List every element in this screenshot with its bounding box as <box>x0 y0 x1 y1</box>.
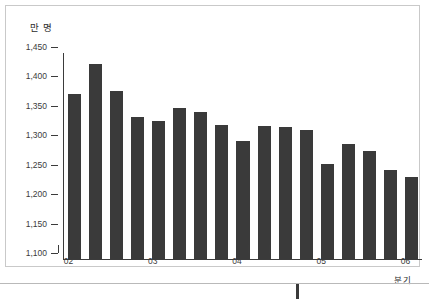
plot-area <box>64 53 422 259</box>
x-axis-tick <box>248 245 249 253</box>
bar <box>363 151 376 259</box>
x-axis-tick <box>100 245 101 253</box>
chart-frame: 만 명 분기 <box>5 5 420 267</box>
x-axis-tick <box>311 245 312 253</box>
x-axis-tick <box>163 245 164 253</box>
y-axis-tick <box>51 106 58 107</box>
y-axis-tick <box>51 165 58 166</box>
bar <box>173 108 186 259</box>
x-axis-tick <box>121 245 122 253</box>
y-axis-tick <box>51 194 58 195</box>
bar <box>300 130 313 259</box>
x-axis-tick <box>395 245 396 253</box>
y-axis-tick-label: 1,150 <box>26 219 47 229</box>
x-axis-tick <box>142 245 143 253</box>
bar <box>131 117 144 259</box>
x-axis-tick <box>269 245 270 253</box>
y-axis-tick-label: 1,100 <box>26 248 47 258</box>
x-axis-tick <box>184 245 185 253</box>
y-axis-tick-label: 1,250 <box>26 160 47 170</box>
y-axis-tick <box>51 47 58 48</box>
bar <box>236 141 249 259</box>
y-axis-tick-label: 1,400 <box>26 71 47 81</box>
bar <box>152 121 165 259</box>
y-axis-labels: 1,1001,1501,2001,2501,3001,3501,4001,450 <box>0 0 47 299</box>
x-axis-tick-label: 05 <box>317 256 326 266</box>
x-axis-tick <box>58 245 59 253</box>
x-axis-tick <box>290 245 291 253</box>
x-axis-tick-label: 03 <box>148 256 157 266</box>
x-axis-tick-label: 04 <box>232 256 241 266</box>
bar <box>258 126 271 259</box>
x-axis-tick <box>374 245 375 253</box>
y-axis-tick-label: 1,200 <box>26 189 47 199</box>
x-axis-tick <box>332 245 333 253</box>
y-axis-tick-label: 1,350 <box>26 101 47 111</box>
bar <box>215 125 228 259</box>
bar <box>110 91 123 259</box>
x-axis-line <box>63 259 422 260</box>
y-axis-tick-label: 1,450 <box>26 42 47 52</box>
x-axis-tick-label: 02 <box>64 256 73 266</box>
footer-divider <box>0 283 429 284</box>
x-axis-tick <box>205 245 206 253</box>
y-axis-tick <box>51 253 58 254</box>
bar <box>279 127 292 259</box>
y-axis-tick <box>51 135 58 136</box>
bar <box>68 94 81 259</box>
bar <box>89 64 102 259</box>
x-axis-tick <box>353 245 354 253</box>
footer-marker <box>296 284 299 299</box>
bar <box>342 144 355 259</box>
x-axis-tick-label: 06 <box>401 256 410 266</box>
y-axis-tick-label: 1,300 <box>26 130 47 140</box>
y-axis-tick <box>51 224 58 225</box>
x-axis-tick <box>226 245 227 253</box>
x-axis-tick <box>79 245 80 253</box>
bar <box>194 112 207 259</box>
y-axis-tick <box>51 76 58 77</box>
x-axis-tick <box>416 245 417 253</box>
